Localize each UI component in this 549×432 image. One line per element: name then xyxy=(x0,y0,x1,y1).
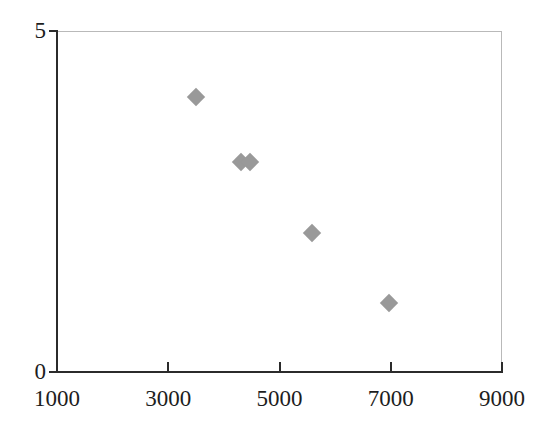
y-tick-mark xyxy=(49,30,58,32)
x-tick-mark xyxy=(167,362,169,373)
plot-frame-top xyxy=(57,31,502,32)
plot-area xyxy=(57,31,502,372)
y-tick-label: 5 xyxy=(6,18,46,44)
x-tick-mark xyxy=(279,362,281,373)
data-point-marker xyxy=(380,294,398,312)
scatter-chart: 10003000500070009000 05 xyxy=(0,0,549,432)
data-point-marker xyxy=(303,224,321,242)
x-tick-mark xyxy=(501,362,503,373)
plot-frame-right xyxy=(501,31,502,372)
x-tick-label: 7000 xyxy=(368,386,414,412)
y-axis-line xyxy=(56,31,58,373)
x-tick-label: 5000 xyxy=(257,386,303,412)
data-point-marker xyxy=(187,88,205,106)
y-tick-label: 0 xyxy=(6,359,46,385)
x-tick-mark xyxy=(390,362,392,373)
x-tick-label: 9000 xyxy=(479,386,525,412)
x-tick-label: 1000 xyxy=(34,386,80,412)
x-tick-label: 3000 xyxy=(145,386,191,412)
y-tick-mark xyxy=(49,371,58,373)
